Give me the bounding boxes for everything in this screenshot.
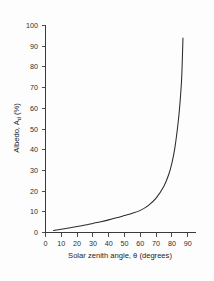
x-axis-title-main: Solar zenith angle,: [68, 251, 133, 260]
albedo-vs-zenith-angle-chart: 0 10 20 30 40 50 60 70 80 90 100: [0, 0, 214, 281]
y-tick-label: 0: [34, 228, 38, 237]
y-tick-label: 40: [30, 145, 38, 154]
y-axis-title-main: Albedo, A: [12, 119, 21, 152]
x-tick-label: 60: [136, 239, 144, 248]
y-tick-label: 90: [30, 42, 38, 51]
x-tick-label: 30: [89, 239, 97, 248]
x-tick-label: 0: [44, 239, 48, 248]
y-tick-label: 20: [30, 187, 38, 196]
x-tick-label: 80: [168, 239, 176, 248]
x-tick-label: 50: [121, 239, 129, 248]
x-tick-label: 40: [105, 239, 113, 248]
y-axis-title-units: (%): [12, 103, 21, 117]
y-axis-title: Albedo, Ad (%): [12, 103, 22, 153]
y-tick-label: 60: [30, 104, 38, 113]
x-axis-title-units: (degrees): [137, 251, 172, 260]
y-tick-label: 80: [30, 62, 38, 71]
x-tick-label: 90: [184, 239, 192, 248]
x-tick-label: 70: [152, 239, 160, 248]
y-tick-label: 100: [26, 21, 38, 30]
y-tick-label: 10: [30, 207, 38, 216]
x-tick-label: 10: [57, 239, 65, 248]
y-tick-label: 30: [30, 166, 38, 175]
y-tick-label: 70: [30, 83, 38, 92]
x-tick-label: 20: [73, 239, 81, 248]
x-axis-title: Solar zenith angle, θ (degrees): [68, 251, 172, 260]
y-tick-label: 50: [30, 125, 38, 134]
chart-figure: 0 10 20 30 40 50 60 70 80 90 100: [0, 0, 214, 281]
